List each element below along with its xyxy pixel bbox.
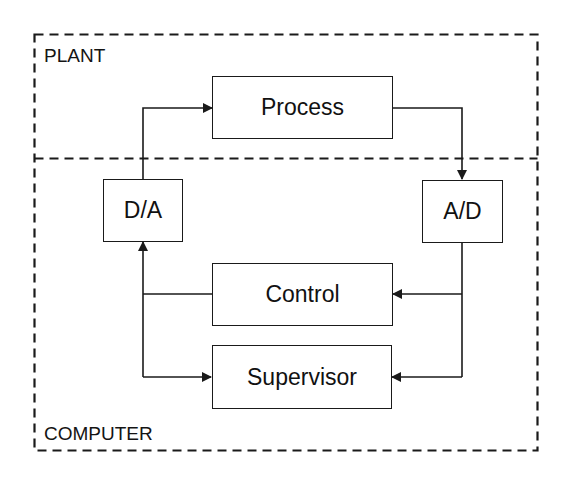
arrow-da-to-process [143,108,212,179]
process-label: Process [261,94,344,121]
supervisor-label: Supervisor [247,364,357,391]
da-label: D/A [124,197,162,224]
plant-computer-block-diagram: PLANT COMPUTER Process D/A A/D Control S… [0,0,571,477]
control-label: Control [265,281,339,308]
da-converter-block: D/A [103,179,183,242]
arrow-process-to-ad [393,108,462,179]
ad-label: A/D [443,198,481,225]
process-block: Process [212,76,393,139]
computer-zone-label: COMPUTER [44,423,153,445]
ad-converter-block: A/D [422,180,503,243]
supervisor-block: Supervisor [212,345,392,409]
plant-zone-label: PLANT [44,45,105,67]
control-block: Control [212,263,393,326]
